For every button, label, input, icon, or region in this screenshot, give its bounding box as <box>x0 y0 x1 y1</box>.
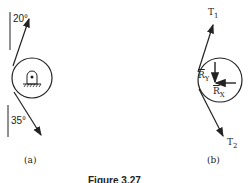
t2-label: T2 <box>227 137 237 150</box>
ry-label: RY <box>198 70 209 83</box>
tension-arrow-bottom <box>14 92 41 135</box>
rx-label: RX <box>213 86 225 99</box>
panel-a-label: (a) <box>24 155 36 165</box>
angle-label-top: 20° <box>13 13 28 24</box>
angle-label-bottom: 35° <box>11 115 26 126</box>
pin-support-icon <box>23 71 41 87</box>
t1-arrow <box>198 25 213 72</box>
panel-b-label: (b) <box>207 155 220 165</box>
t1-label: T1 <box>208 7 218 20</box>
figure-caption: Figure 3.27 <box>88 175 141 183</box>
